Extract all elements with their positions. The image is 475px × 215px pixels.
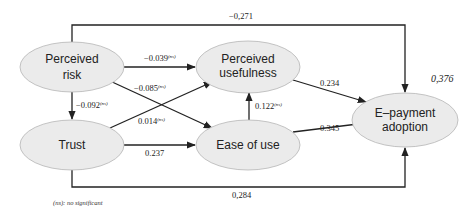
node-label: Trust bbox=[59, 138, 87, 152]
node-label: E–payment bbox=[375, 106, 436, 120]
node-label: Perceived bbox=[45, 52, 98, 66]
node-label: adoption bbox=[382, 120, 428, 134]
node-e-payment-adoption: E–payment adoption bbox=[352, 93, 458, 147]
coef-trust-usefulness: 0.014(ns) bbox=[138, 116, 165, 126]
coef-trust-adoption: 0,284 bbox=[232, 190, 252, 200]
sem-diagram: Perceived risk Trust Perceived usefulnes… bbox=[0, 0, 475, 215]
node-label: usefulness bbox=[219, 66, 276, 80]
coef-ease-usefulness: 0.122(ns) bbox=[255, 101, 282, 111]
coef-ease-adoption: 0.345 bbox=[320, 123, 339, 133]
node-perceived-usefulness: Perceived usefulness bbox=[196, 41, 300, 93]
node-ease-of-use: Ease of use bbox=[196, 120, 300, 170]
coef-risk-usefulness: −0.039(ns) bbox=[144, 53, 176, 63]
coef-risk-ease: −0.085(ns) bbox=[134, 83, 166, 93]
node-label: Perceived bbox=[221, 52, 274, 66]
r-squared-label: 0,376 bbox=[431, 73, 454, 84]
coef-risk-adoption: −0,271 bbox=[229, 11, 253, 21]
node-label: Ease of use bbox=[216, 138, 280, 152]
node-perceived-risk: Perceived risk bbox=[20, 42, 124, 92]
coef-usefulness-adoption: 0.234 bbox=[320, 78, 340, 88]
node-label: risk bbox=[63, 68, 83, 82]
node-trust: Trust bbox=[20, 120, 124, 170]
coef-trust-ease: 0.237 bbox=[145, 148, 164, 158]
significance-note: (ns): no significant bbox=[53, 199, 103, 207]
coef-risk-trust: −0.092(ns) bbox=[76, 100, 108, 110]
